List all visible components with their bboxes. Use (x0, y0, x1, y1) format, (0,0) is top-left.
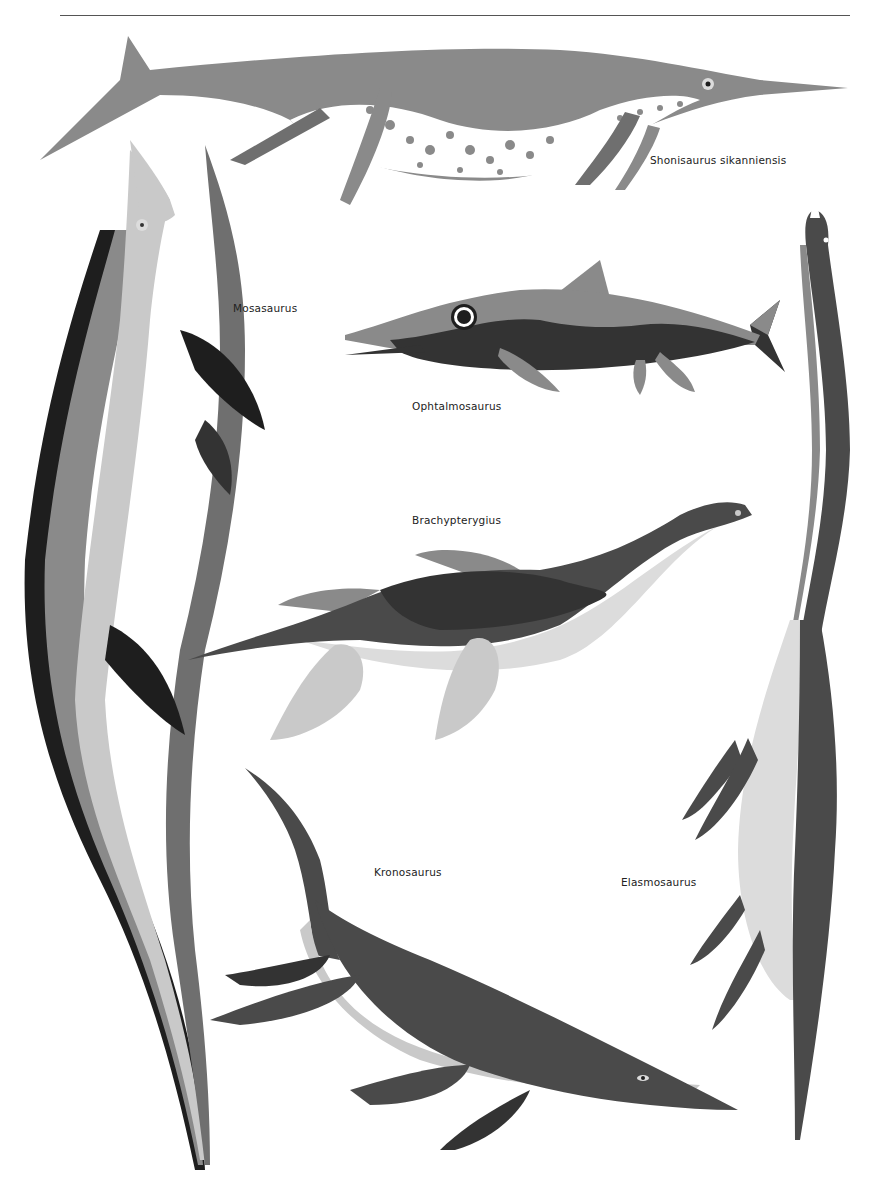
label-brachypterygius: Brachypterygius (412, 514, 501, 526)
ophtalmosaurus-figure (345, 260, 785, 395)
label-mosasaurus: Mosasaurus (233, 302, 297, 314)
marine-reptiles-illustration (0, 0, 895, 1189)
brachypterygius-figure (188, 502, 752, 740)
shonisaurus-figure (40, 36, 848, 205)
kronosaurus-figure (210, 768, 738, 1150)
label-ophtalmosaurus: Ophtalmosaurus (412, 400, 502, 412)
label-kronosaurus: Kronosaurus (374, 866, 442, 878)
label-shonisaurus: Shonisaurus sikanniensis (650, 154, 786, 166)
label-elasmosaurus: Elasmosaurus (621, 876, 697, 888)
